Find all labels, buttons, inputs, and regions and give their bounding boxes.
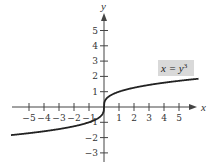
y-axis-arrow-icon <box>101 13 107 21</box>
x-tick-label: 2 <box>131 113 137 123</box>
equation-text: x = y <box>160 62 184 74</box>
y-axis-label: y <box>100 0 106 12</box>
equation-exponent: 3 <box>184 62 188 70</box>
x-axis-label: x <box>200 101 206 113</box>
x-tick-label: −5 <box>22 113 36 123</box>
axes <box>12 13 197 162</box>
y-tick-label: −2 <box>85 133 98 143</box>
x-tick-label: −3 <box>52 113 66 123</box>
y-tick-label: −3 <box>85 148 99 158</box>
equation-label: x = y3 <box>158 60 194 76</box>
x-tick-label: 5 <box>176 113 182 123</box>
svg-text:x = y3: x = y3 <box>160 62 188 74</box>
y-tick-label: 2 <box>92 71 98 81</box>
y-tick-label: 1 <box>92 87 98 97</box>
chart: −5−4−3−2−112345−3−2−112345 x y x = y3 <box>0 0 211 166</box>
x-tick-label: −4 <box>37 113 51 123</box>
x-tick-label: −2 <box>67 113 80 123</box>
y-tick-label: 3 <box>92 56 98 66</box>
y-tick-label: 5 <box>92 26 98 36</box>
y-tick-label: 4 <box>92 41 98 51</box>
x-tick-label: 3 <box>146 113 152 123</box>
x-tick-label: 4 <box>161 113 167 123</box>
x-tick-label: 1 <box>116 113 122 123</box>
x-axis-arrow-icon <box>189 104 197 110</box>
